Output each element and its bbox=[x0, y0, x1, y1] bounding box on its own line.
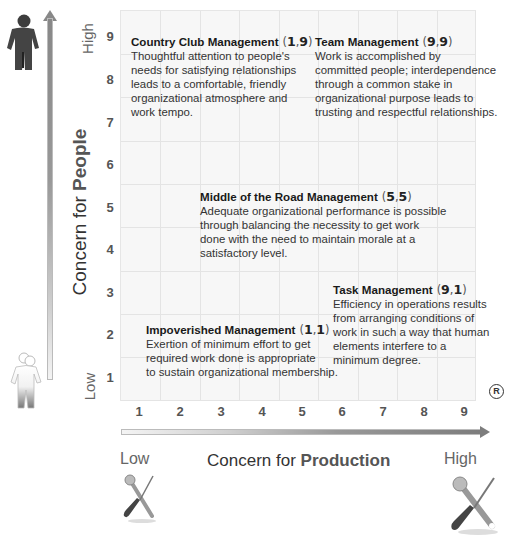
style-coordinates: (1,1) bbox=[299, 323, 329, 337]
description-line: Efficiency in operations results bbox=[333, 297, 512, 311]
grid-line bbox=[121, 141, 476, 142]
description-line: leads to a comfortable, friendly bbox=[131, 77, 331, 91]
x-axis-label-emphasis: Production bbox=[301, 451, 391, 470]
description-line: through a common stake in bbox=[315, 77, 512, 91]
middle-of-the-road-management: Middle of the Road Management(5,5) Adequ… bbox=[200, 190, 460, 260]
tools-small-icon bbox=[120, 472, 164, 524]
y-axis-label-emphasis: People bbox=[69, 129, 90, 191]
x-axis-high-label: High bbox=[444, 450, 477, 468]
y-axis-low-label: Low bbox=[81, 373, 98, 401]
coord-x: 1 bbox=[287, 34, 296, 49]
x-axis-arrow bbox=[121, 429, 481, 435]
y-tick: 4 bbox=[100, 242, 120, 257]
x-tick: 6 bbox=[332, 404, 352, 419]
description-line: committed people; interdependence bbox=[315, 63, 512, 77]
y-axis-label: Concern for People bbox=[69, 129, 91, 296]
style-name: Middle of the Road Management bbox=[200, 190, 378, 203]
style-coordinates: (1,9) bbox=[283, 35, 313, 49]
description-line: elements interfere to a bbox=[333, 339, 512, 353]
style-title: Middle of the Road Management(5,5) bbox=[200, 190, 460, 204]
x-tick: 1 bbox=[129, 404, 149, 419]
y-axis-high-label: High bbox=[79, 23, 96, 54]
y-tick: 6 bbox=[100, 157, 120, 172]
task-management: Task Management(9,1) Efficiency in opera… bbox=[333, 283, 512, 367]
person-dark-icon bbox=[4, 14, 40, 74]
description-line: minimum degree. bbox=[333, 353, 512, 367]
style-title: Task Management(9,1) bbox=[333, 283, 512, 297]
coord-y: 9 bbox=[439, 34, 448, 49]
x-tick: 7 bbox=[373, 404, 393, 419]
y-tick: 5 bbox=[100, 200, 120, 215]
description-line: Thoughtful attention to people's bbox=[131, 49, 331, 63]
grid-line bbox=[121, 400, 476, 401]
style-name: Impoverished Management bbox=[146, 323, 295, 336]
x-tick: 9 bbox=[454, 404, 474, 419]
coord-x: 9 bbox=[427, 34, 436, 49]
style-coordinates: (9,9) bbox=[423, 35, 453, 49]
style-title: Country Club Management(1,9) bbox=[131, 35, 331, 49]
coord-y: 9 bbox=[299, 34, 308, 49]
description-line: work tempo. bbox=[131, 105, 331, 119]
description-line: to sustain organizational membership. bbox=[146, 365, 346, 379]
y-axis-label-prefix: Concern for bbox=[69, 191, 90, 296]
coord-y: 1 bbox=[453, 282, 462, 297]
y-tick: 9 bbox=[100, 29, 120, 44]
style-coordinates: (9,1) bbox=[437, 283, 467, 297]
grid-line bbox=[121, 271, 476, 272]
style-title: Impoverished Management(1,1) bbox=[146, 323, 346, 337]
x-axis-label-prefix: Concern for bbox=[207, 451, 301, 470]
impoverished-management: Impoverished Management(1,1) Exertion of… bbox=[146, 323, 346, 379]
coord-x: 5 bbox=[386, 189, 395, 204]
x-tick: 2 bbox=[170, 404, 190, 419]
x-axis-label: Concern for Production bbox=[207, 451, 390, 471]
description-line: organizational atmosphere and bbox=[131, 91, 331, 105]
description-line: trusting and respectful relationships. bbox=[315, 105, 512, 119]
coord-x: 1 bbox=[304, 322, 313, 337]
registered-trademark-mark: R bbox=[489, 384, 504, 399]
description-line: needs for satisfying relationships bbox=[131, 63, 331, 77]
team-management: Team Management(9,9) Work is accomplishe… bbox=[315, 35, 512, 119]
x-tick: 5 bbox=[292, 404, 312, 419]
tools-large-icon bbox=[446, 474, 508, 536]
x-tick: 4 bbox=[252, 404, 272, 419]
coord-x: 9 bbox=[441, 282, 450, 297]
x-tick: 8 bbox=[414, 404, 434, 419]
description-line: required work done is appropriate bbox=[146, 351, 346, 365]
country-club-management: Country Club Management(1,9) Thoughtful … bbox=[131, 35, 331, 119]
x-axis-low-label: Low bbox=[120, 450, 149, 468]
description-line: Work is accomplished by bbox=[315, 49, 512, 63]
description-line: work in such a way that human bbox=[333, 325, 512, 339]
description-line: Adequate organizational performance is p… bbox=[200, 204, 460, 218]
y-axis-arrow bbox=[47, 18, 53, 380]
coord-y: 5 bbox=[399, 189, 408, 204]
description-line: through balancing the necessity to get w… bbox=[200, 218, 460, 232]
grid-line bbox=[121, 184, 476, 185]
y-tick: 3 bbox=[100, 285, 120, 300]
coord-y: 1 bbox=[316, 322, 325, 337]
y-tick: 2 bbox=[100, 327, 120, 342]
description-line: organizational purpose leads to bbox=[315, 91, 512, 105]
person-faded-icon bbox=[8, 352, 44, 412]
x-axis-arrowhead bbox=[480, 426, 490, 438]
description-line: Exertion of minimum effort to get bbox=[146, 337, 346, 351]
description-line: satisfactory level. bbox=[200, 246, 460, 260]
style-title: Team Management(9,9) bbox=[315, 35, 512, 49]
description-line: done with the need to maintain morale at… bbox=[200, 232, 460, 246]
style-coordinates: (5,5) bbox=[382, 190, 412, 204]
style-name: Country Club Management bbox=[131, 35, 279, 48]
style-name: Team Management bbox=[315, 35, 419, 48]
x-tick: 3 bbox=[211, 404, 231, 419]
y-tick: 1 bbox=[100, 370, 120, 385]
description-line: from arranging conditions of bbox=[333, 311, 512, 325]
y-tick: 7 bbox=[100, 115, 120, 130]
style-name: Task Management bbox=[333, 283, 433, 296]
y-tick: 8 bbox=[100, 72, 120, 87]
